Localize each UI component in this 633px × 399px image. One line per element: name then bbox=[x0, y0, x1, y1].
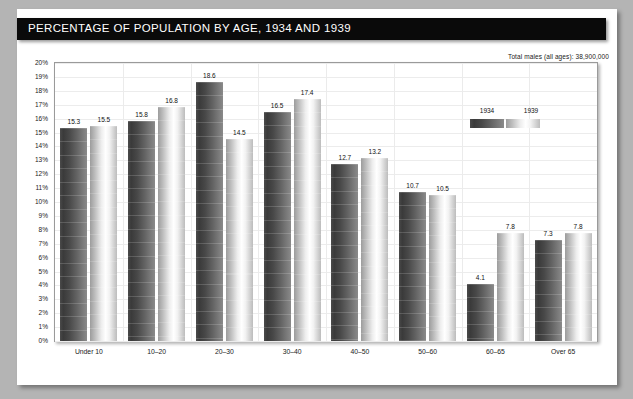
y-axis-tick-label: 10% bbox=[2, 198, 48, 205]
bar-1939-20–30 bbox=[226, 139, 253, 341]
legend-label-1939: 1939 bbox=[514, 107, 548, 114]
bar-1939-40–50 bbox=[361, 158, 388, 341]
y-axis-tick-label: 2% bbox=[2, 309, 48, 316]
bar-1939-50–60 bbox=[429, 195, 456, 341]
y-axis-tick-label: 13% bbox=[2, 156, 48, 163]
chart-title-bar: PERCENTAGE OF POPULATION BY AGE, 1934 AN… bbox=[17, 18, 606, 40]
y-axis-tick-label: 12% bbox=[2, 170, 48, 177]
bar-value-label: 13.2 bbox=[357, 148, 392, 155]
legend-label-1934: 1934 bbox=[470, 107, 504, 114]
gridline-vertical bbox=[123, 63, 124, 341]
gridline-vertical bbox=[326, 63, 327, 341]
bar-value-label: 15.8 bbox=[124, 111, 159, 118]
y-axis-tick-label: 20% bbox=[2, 59, 48, 66]
plot-area: 15.315.515.816.818.614.516.517.412.713.2… bbox=[54, 62, 598, 342]
y-axis-tick-label: 4% bbox=[2, 281, 48, 288]
bar-1934-50–60 bbox=[399, 192, 426, 341]
bar-1939-60–65 bbox=[497, 233, 524, 341]
y-axis-tick-label: 14% bbox=[2, 142, 48, 149]
x-axis-tick-label: Over 65 bbox=[523, 348, 603, 355]
gridline-vertical bbox=[394, 63, 395, 341]
page-root: PERCENTAGE OF POPULATION BY AGE, 1934 AN… bbox=[0, 0, 633, 399]
bar-value-label: 14.5 bbox=[222, 129, 257, 136]
gridline-vertical bbox=[462, 63, 463, 341]
bar-value-label: 4.1 bbox=[463, 274, 498, 281]
bar-1939-Under-10 bbox=[90, 126, 117, 341]
bar-1934-Under-10 bbox=[60, 128, 87, 341]
y-axis-tick-label: 19% bbox=[2, 73, 48, 80]
bar-1934-Over-65 bbox=[535, 240, 562, 341]
bar-value-label: 10.5 bbox=[425, 185, 460, 192]
gridline-horizontal bbox=[55, 341, 597, 342]
bar-value-label: 17.4 bbox=[290, 89, 325, 96]
legend-swatch-1934 bbox=[470, 119, 504, 128]
y-axis-tick-label: 0% bbox=[2, 337, 48, 344]
bar-1934-20–30 bbox=[196, 82, 223, 341]
plot-inner: 15.315.515.816.818.614.516.517.412.713.2… bbox=[55, 63, 597, 341]
gridline-vertical bbox=[529, 63, 530, 341]
y-axis-tick-label: 15% bbox=[2, 129, 48, 136]
page-title: PERCENTAGE OF POPULATION BY AGE, 1934 AN… bbox=[28, 22, 351, 34]
y-axis-tick-label: 1% bbox=[2, 323, 48, 330]
bar-value-label: 12.7 bbox=[327, 154, 362, 161]
bar-value-label: 7.3 bbox=[531, 230, 566, 237]
y-axis-tick-label: 9% bbox=[2, 212, 48, 219]
bar-value-label: 7.8 bbox=[561, 223, 596, 230]
y-axis-tick-label: 16% bbox=[2, 115, 48, 122]
y-axis-tick-label: 7% bbox=[2, 240, 48, 247]
bar-value-label: 7.8 bbox=[493, 223, 528, 230]
bar-1934-60–65 bbox=[467, 284, 494, 341]
gridline-vertical bbox=[191, 63, 192, 341]
y-axis-tick-label: 17% bbox=[2, 101, 48, 108]
bar-1934-30–40 bbox=[264, 112, 291, 341]
bar-value-label: 15.5 bbox=[86, 116, 121, 123]
y-axis-tick-label: 3% bbox=[2, 295, 48, 302]
bar-1939-10–20 bbox=[158, 107, 185, 341]
y-axis-tick-label: 5% bbox=[2, 268, 48, 275]
y-axis-tick-label: 18% bbox=[2, 87, 48, 94]
y-axis-tick-label: 8% bbox=[2, 226, 48, 233]
bar-1934-10–20 bbox=[128, 121, 155, 341]
bar-value-label: 16.8 bbox=[154, 97, 189, 104]
bar-1934-40–50 bbox=[331, 164, 358, 341]
bar-1939-30–40 bbox=[294, 99, 321, 341]
bar-1939-Over-65 bbox=[565, 233, 592, 341]
bar-value-label: 16.5 bbox=[260, 102, 295, 109]
total-males-annotation: Total males (all ages): 38,900,000 bbox=[508, 53, 609, 60]
y-axis-tick-label: 6% bbox=[2, 254, 48, 261]
legend-swatch-1939 bbox=[506, 119, 540, 128]
y-axis-tick-label: 11% bbox=[2, 184, 48, 191]
bar-value-label: 18.6 bbox=[192, 72, 227, 79]
